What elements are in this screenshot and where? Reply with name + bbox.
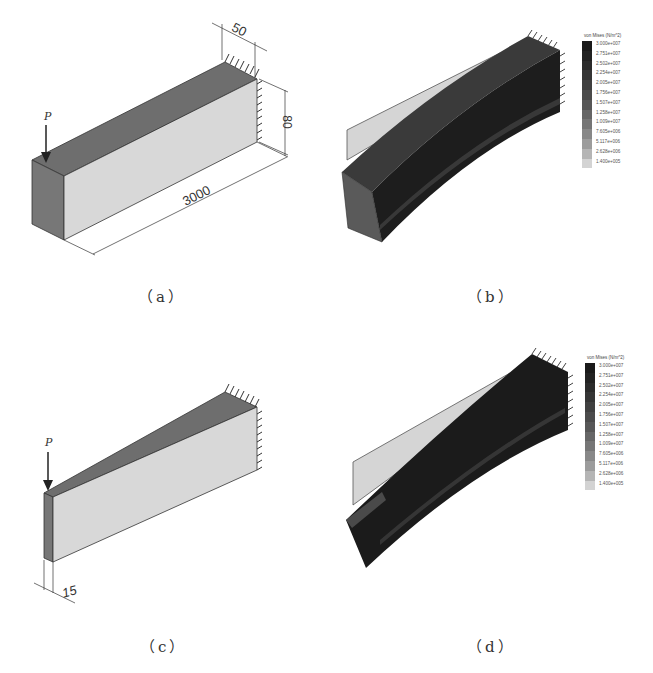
legend-color-swatch	[585, 363, 595, 373]
legend-value: 5.117e+006	[599, 459, 623, 469]
legend-color-swatch	[585, 441, 595, 451]
legend-value: 1.507e+007	[599, 420, 623, 430]
legend-value: 1.756e+007	[596, 88, 620, 98]
caption-d: （d）	[467, 635, 516, 656]
legend-color-swatch	[582, 61, 592, 71]
legend-value: 5.117e+006	[596, 137, 620, 147]
legend-color-swatch	[582, 100, 592, 110]
stress-plot-tapered	[320, 340, 580, 580]
caption-b: （b）	[467, 285, 516, 306]
legend-value: 1.400e+005	[599, 479, 623, 489]
caption-c: （c）	[140, 635, 187, 656]
legend-color-swatch	[585, 392, 595, 402]
legend-value: 2.628e+006	[599, 469, 623, 479]
color-bar	[585, 363, 595, 490]
legend-color-swatch	[585, 422, 595, 432]
legend-value: 1.009e+007	[599, 439, 623, 449]
dimension-height: 80	[280, 115, 294, 128]
legend-value: 1.756e+007	[599, 410, 623, 420]
legend-value: 7.605e+006	[599, 449, 623, 459]
legend-value: 1.400e+005	[596, 157, 620, 167]
legend-value: 2.502e+007	[599, 381, 623, 391]
legend-color-swatch	[585, 383, 595, 393]
panel-a: P 50 80 3000	[0, 0, 320, 270]
legend-value: 2.005e+007	[599, 400, 623, 410]
stress-legend-d: von Mises (N/m^2) 3.000e+0072.751e+0072.…	[585, 355, 653, 490]
legend-value: 3.000e+007	[596, 39, 620, 49]
legend-color-swatch	[582, 80, 592, 90]
stress-plot-rectangular	[320, 20, 580, 260]
legend-color-swatch	[585, 373, 595, 383]
stress-legend-b: von Mises (N/m^2) 3.000e+0072.751e+0072.…	[582, 33, 652, 168]
load-label: P	[45, 436, 52, 449]
caption-a: （a）	[138, 285, 186, 306]
legend-color-swatch	[585, 451, 595, 461]
legend-color-swatch	[582, 159, 592, 169]
legend-color-swatch	[582, 110, 592, 120]
legend-value: 1.009e+007	[596, 117, 620, 127]
legend-color-swatch	[582, 119, 592, 129]
color-bar	[582, 41, 592, 168]
legend-color-swatch	[582, 129, 592, 139]
legend-color-swatch	[585, 432, 595, 442]
legend-value: 2.751e+007	[599, 371, 623, 381]
legend-color-swatch	[585, 402, 595, 412]
legend-color-swatch	[582, 51, 592, 61]
legend-value: 1.258e+007	[596, 108, 620, 118]
load-label: P	[44, 110, 51, 123]
legend-value: 2.005e+007	[596, 78, 620, 88]
legend-value: 2.751e+007	[596, 49, 620, 59]
legend-title: von Mises (N/m^2)	[584, 33, 652, 38]
legend-value: 1.507e+007	[596, 98, 620, 108]
legend-color-swatch	[582, 149, 592, 159]
panel-c: P 15	[0, 340, 320, 620]
panel-b	[320, 20, 580, 260]
legend-value: 3.000e+007	[599, 361, 623, 371]
legend-value: 2.254e+007	[596, 68, 620, 78]
tapered-beam-drawing	[0, 340, 320, 620]
legend-title: von Mises (N/m^2)	[587, 355, 653, 360]
legend-value: 2.502e+007	[596, 59, 620, 69]
legend-color-swatch	[582, 90, 592, 100]
legend-color-swatch	[582, 139, 592, 149]
legend-color-swatch	[585, 471, 595, 481]
legend-color-swatch	[582, 41, 592, 51]
legend-value: 2.254e+007	[599, 390, 623, 400]
rectangular-beam-drawing	[0, 0, 320, 270]
legend-color-swatch	[585, 412, 595, 422]
legend-color-swatch	[585, 461, 595, 471]
legend-color-swatch	[585, 481, 595, 491]
legend-value: 1.258e+007	[599, 430, 623, 440]
legend-color-swatch	[582, 70, 592, 80]
panel-d	[320, 340, 580, 580]
legend-value: 7.605e+006	[596, 127, 620, 137]
legend-value: 2.628e+006	[596, 147, 620, 157]
